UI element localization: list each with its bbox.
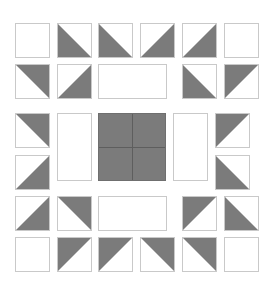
half-square-triangle-tr xyxy=(15,64,50,99)
half-square-triangle-tr xyxy=(182,237,217,272)
seam-line xyxy=(99,147,165,148)
plain-square xyxy=(224,237,259,272)
plain-square xyxy=(15,23,50,58)
half-square-triangle-br xyxy=(182,23,217,58)
half-square-triangle-tl xyxy=(98,237,133,272)
half-square-triangle-tr xyxy=(140,237,175,272)
half-square-triangle-tl xyxy=(182,196,217,231)
half-square-triangle-tl xyxy=(57,237,92,272)
quilt-block xyxy=(0,0,269,283)
half-square-triangle-br xyxy=(15,155,50,190)
half-square-triangle-br xyxy=(15,196,50,231)
plain-rectangle xyxy=(98,196,167,231)
half-square-triangle-tl xyxy=(224,64,259,99)
plain-rectangle xyxy=(173,113,208,181)
half-square-triangle-bl xyxy=(224,196,259,231)
half-square-triangle-bl xyxy=(98,23,133,58)
half-square-triangle-tr xyxy=(57,196,92,231)
half-square-triangle-br xyxy=(57,64,92,99)
plain-square xyxy=(224,23,259,58)
half-square-triangle-tr xyxy=(15,113,50,148)
half-square-triangle-br xyxy=(140,23,175,58)
plain-rectangle xyxy=(98,64,167,99)
plain-rectangle xyxy=(57,113,92,181)
half-square-triangle-bl xyxy=(182,64,217,99)
center-four-patch xyxy=(98,113,166,181)
half-square-triangle-tl xyxy=(215,113,250,148)
plain-square xyxy=(15,237,50,272)
half-square-triangle-bl xyxy=(57,23,92,58)
half-square-triangle-bl xyxy=(215,155,250,190)
